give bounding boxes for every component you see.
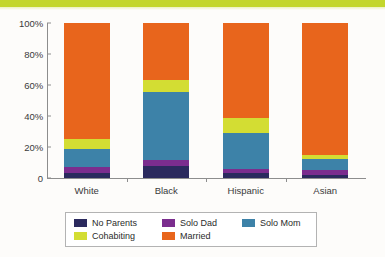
- y-axis-tick-label: 60%: [24, 80, 47, 91]
- bar-segment-married[interactable]: [302, 23, 348, 155]
- y-axis-tick-label: 40%: [24, 111, 47, 122]
- top-decorative-band: [0, 0, 385, 7]
- stacked-bar-chart: 020%40%60%80%100% WhiteBlackHispanicAsia…: [0, 10, 385, 257]
- bar-segment-cohabiting[interactable]: [223, 118, 269, 134]
- legend-label-no-parents: No Parents: [92, 218, 137, 228]
- bar-group-asian: [302, 23, 348, 178]
- y-axis-tick: 80%: [24, 49, 47, 60]
- stacked-bar[interactable]: [223, 23, 269, 178]
- stacked-bar[interactable]: [143, 23, 189, 178]
- bar-group-black: [143, 23, 189, 178]
- legend-swatch-married: [162, 232, 175, 240]
- y-axis-tick-mark: [47, 23, 51, 24]
- y-axis-tick-mark: [47, 54, 51, 55]
- bar-segment-cohabiting[interactable]: [64, 139, 110, 150]
- chart-page: 020%40%60%80%100% WhiteBlackHispanicAsia…: [0, 0, 385, 257]
- x-axis-label-asian: Asian: [313, 185, 337, 196]
- legend-label-married: Married: [180, 231, 211, 241]
- bar-group-white: [64, 23, 110, 178]
- y-axis-tick-mark: [47, 116, 51, 117]
- y-axis-tick: 20%: [24, 142, 47, 153]
- bar-segment-married[interactable]: [143, 23, 189, 80]
- y-axis-tick: 60%: [24, 80, 47, 91]
- y-axis-tick-label: 100%: [19, 18, 47, 29]
- legend-row: Cohabiting Married: [74, 231, 310, 241]
- y-axis-tick: 40%: [24, 111, 47, 122]
- bar-segment-solo-mom[interactable]: [64, 149, 110, 167]
- y-axis-tick-label: 0: [38, 173, 47, 184]
- x-axis-label-black: Black: [155, 185, 178, 196]
- y-axis-tick: 0: [38, 173, 47, 184]
- legend-item-no-parents: No Parents: [74, 218, 162, 228]
- x-axis-label-hispanic: Hispanic: [228, 185, 264, 196]
- legend-label-solo-mom: Solo Mom: [260, 218, 301, 228]
- chart-legend: No Parents Solo Dad Solo Mom Cohabiting: [65, 212, 317, 247]
- legend-row: No Parents Solo Dad Solo Mom: [74, 218, 310, 228]
- legend-item-married: Married: [162, 231, 242, 241]
- y-axis-tick: 100%: [19, 18, 47, 29]
- legend-swatch-no-parents: [74, 219, 87, 227]
- legend-swatch-cohabiting: [74, 232, 87, 240]
- y-axis-tick-mark: [47, 178, 51, 179]
- bar-segment-solo-mom[interactable]: [302, 159, 348, 171]
- y-axis-tick-mark: [47, 85, 51, 86]
- legend-label-solo-dad: Solo Dad: [180, 218, 217, 228]
- x-axis-tick-mark: [206, 178, 207, 182]
- legend-label-cohabiting: Cohabiting: [92, 231, 135, 241]
- bar-segment-solo-mom[interactable]: [143, 92, 189, 160]
- x-axis-tick-mark: [286, 178, 287, 182]
- stacked-bar[interactable]: [64, 23, 110, 178]
- bar-segment-no-parents[interactable]: [64, 173, 110, 178]
- bars-container: [47, 23, 365, 178]
- bar-segment-married[interactable]: [64, 23, 110, 138]
- bar-segment-cohabiting[interactable]: [143, 80, 189, 92]
- x-axis-tick-mark: [127, 178, 128, 182]
- bar-segment-married[interactable]: [223, 23, 269, 118]
- y-axis-tick-mark: [47, 147, 51, 148]
- legend-item-solo-mom: Solo Mom: [242, 218, 301, 228]
- plot-area: 020%40%60%80%100%: [47, 23, 365, 178]
- legend-swatch-solo-dad: [162, 219, 175, 227]
- bar-segment-no-parents[interactable]: [223, 173, 269, 178]
- x-axis-label-white: White: [75, 185, 99, 196]
- y-axis-tick-label: 80%: [24, 49, 47, 60]
- legend-swatch-solo-mom: [242, 219, 255, 227]
- bar-segment-solo-mom[interactable]: [223, 133, 269, 169]
- bar-segment-no-parents[interactable]: [143, 166, 189, 178]
- legend-item-solo-dad: Solo Dad: [162, 218, 242, 228]
- bar-segment-no-parents[interactable]: [302, 175, 348, 178]
- y-axis-tick-label: 20%: [24, 142, 47, 153]
- stacked-bar[interactable]: [302, 23, 348, 178]
- legend-item-cohabiting: Cohabiting: [74, 231, 162, 241]
- bar-group-hispanic: [223, 23, 269, 178]
